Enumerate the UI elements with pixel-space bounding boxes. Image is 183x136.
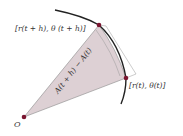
origin-label: O — [14, 120, 21, 129]
right-point — [124, 76, 129, 81]
origin-point — [22, 115, 27, 120]
right-point-label: [r(t), θ(t)] — [129, 81, 166, 90]
upper-point-label: [r(t + h), θ (t + h)] — [15, 24, 86, 33]
upper-point — [97, 23, 102, 28]
polar-area-diagram: [r(t + h), θ (t + h)] [r(t), θ(t)] O A(t… — [0, 0, 183, 136]
